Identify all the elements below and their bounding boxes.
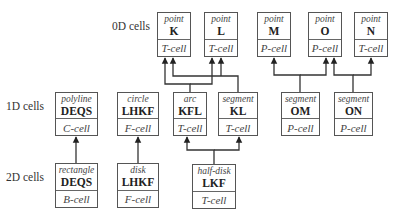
- cell-kind: circle: [118, 95, 158, 105]
- cell-type: T-cell: [193, 192, 235, 209]
- row-label-1d: 1D cells: [6, 100, 44, 112]
- cell-header: pointL: [205, 13, 237, 40]
- cell-header: circleLHKF: [118, 93, 158, 119]
- row-label-2d: 2D cells: [6, 171, 44, 183]
- cell-header: half-diskLKF: [193, 165, 235, 192]
- cell-type: T-cell: [205, 40, 237, 57]
- cell-header: arcKFL: [174, 93, 206, 119]
- cell-kind: point: [309, 15, 341, 25]
- cell-header: pointO: [309, 13, 341, 40]
- cell-kind: disk: [118, 166, 158, 176]
- cell-type: P-cell: [282, 119, 319, 136]
- cell-node-kl: segmentKLT-cell: [218, 92, 258, 136]
- cell-type: T-cell: [174, 119, 206, 136]
- cell-kind: segment: [335, 95, 372, 105]
- cell-type: F-cell: [118, 191, 158, 208]
- cell-node-om: segmentOMP-cell: [281, 92, 320, 136]
- cell-name: KL: [219, 105, 257, 117]
- cell-type: B-cell: [56, 191, 97, 208]
- arrow-on-to-o: [334, 58, 353, 92]
- cell-kind: point: [205, 15, 237, 25]
- cell-name: N: [355, 25, 387, 37]
- cell-name: OM: [282, 105, 319, 117]
- cell-type: C-cell: [56, 119, 97, 136]
- cell-kind: point: [158, 15, 190, 25]
- cell-type: F-cell: [118, 119, 158, 136]
- cell-name: LKF: [193, 177, 235, 189]
- cell-node-l: pointLT-cell: [204, 12, 238, 57]
- cell-kind: segment: [282, 95, 319, 105]
- cell-kind: point: [258, 15, 290, 25]
- arrow-on-to-n: [353, 58, 371, 75]
- cell-header: diskLHKF: [118, 164, 158, 191]
- cell-type: T-cell: [355, 40, 387, 57]
- cell-name: KFL: [174, 105, 206, 117]
- arrow-kfl-to-l: [190, 58, 212, 84]
- cell-type: P-cell: [335, 119, 372, 136]
- cell-header: segmentKL: [219, 93, 257, 119]
- cell-name: O: [309, 25, 341, 37]
- cell-node-k: pointKT-cell: [157, 12, 191, 57]
- cell-kind: polyline: [56, 95, 97, 105]
- cell-name: DEQS: [56, 176, 97, 188]
- arrow-lkf-to-kl: [214, 137, 239, 150]
- cell-header: pointM: [258, 13, 290, 40]
- cell-node-lkf: half-diskLKFT-cell: [192, 164, 236, 209]
- arrow-om-to-m: [274, 58, 300, 92]
- cell-node-o: pointOP-cell: [308, 12, 342, 57]
- cell-name: M: [258, 25, 290, 37]
- cell-kind: rectangle: [56, 166, 97, 176]
- cell-node-m: pointMP-cell: [257, 12, 291, 57]
- cell-node-lhkf1: circleLHKFF-cell: [117, 92, 159, 136]
- cell-node-kfl: arcKFLT-cell: [173, 92, 207, 136]
- cell-kind: segment: [219, 95, 257, 105]
- cell-node-deqs2: rectangleDEQSB-cell: [55, 163, 98, 208]
- arrow-kl-to-k: [173, 58, 238, 92]
- cell-header: pointK: [158, 13, 190, 40]
- cell-type: T-cell: [158, 40, 190, 57]
- cell-name: LHKF: [118, 105, 158, 117]
- cell-node-deqs1: polylineDEQSC-cell: [55, 92, 98, 136]
- cell-header: rectangleDEQS: [56, 164, 97, 191]
- cell-kind: half-disk: [193, 167, 235, 177]
- cell-node-n: pointNT-cell: [354, 12, 388, 57]
- cell-header: pointN: [355, 13, 387, 40]
- cell-header: polylineDEQS: [56, 93, 97, 119]
- arrow-om-to-o: [300, 58, 326, 75]
- arrow-lkf-to-kfl: [187, 137, 214, 164]
- cell-node-lhkf2: diskLHKFF-cell: [117, 163, 159, 208]
- cell-kind: arc: [174, 95, 206, 105]
- cell-type: P-cell: [309, 40, 341, 57]
- cell-node-on: segmentONP-cell: [334, 92, 373, 136]
- cell-name: ON: [335, 105, 372, 117]
- cell-name: L: [205, 25, 237, 37]
- cell-name: K: [158, 25, 190, 37]
- cell-header: segmentOM: [282, 93, 319, 119]
- cell-name: DEQS: [56, 105, 97, 117]
- cell-kind: point: [355, 15, 387, 25]
- cell-name: LHKF: [118, 176, 158, 188]
- row-label-0d: 0D cells: [112, 20, 150, 32]
- cell-type: P-cell: [258, 40, 290, 57]
- arrow-kfl-to-k: [165, 58, 190, 92]
- cell-header: segmentON: [335, 93, 372, 119]
- cell-type: T-cell: [219, 119, 257, 136]
